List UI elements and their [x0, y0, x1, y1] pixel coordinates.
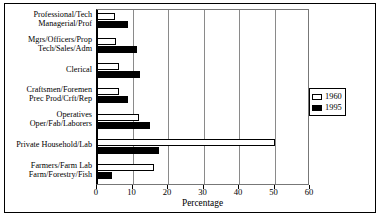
category-label-line: Managerial/Prof [33, 19, 92, 28]
bar-1960 [97, 88, 119, 95]
bar-1960 [97, 164, 154, 171]
bar-1995 [97, 147, 159, 154]
hollow-square-swatch-icon [312, 94, 322, 100]
bar-1995 [97, 172, 112, 179]
x-tick-label: 50 [259, 187, 289, 197]
x-tick-label: 20 [152, 187, 182, 197]
category-label-line: Operatives [30, 110, 92, 119]
x-tick-label: 30 [188, 187, 218, 197]
category-label-line: Farm/Forestry/Fish [29, 170, 92, 179]
bar-1960 [97, 139, 275, 146]
legend-label: 1960 [325, 92, 342, 101]
x-tick-label: 10 [117, 187, 147, 197]
x-axis-title: Percentage [96, 198, 309, 208]
category-label: Clerical [66, 65, 92, 74]
bar-1960 [97, 114, 139, 121]
gridline-50 [275, 10, 276, 184]
category-label: Farmers/Farm Lab Farm/Forestry/Fish [29, 161, 92, 179]
x-tick-label: 0 [81, 187, 111, 197]
gridline-10 [133, 10, 134, 184]
legend-label: 1995 [325, 103, 342, 112]
legend-item-1960: 1960 [312, 91, 342, 102]
gridline-40 [239, 10, 240, 184]
gridline-30 [204, 10, 205, 184]
x-tick-label: 60 [294, 187, 324, 197]
category-label: Professional/Tech Managerial/Prof [33, 10, 92, 28]
legend-item-1995: 1995 [312, 102, 342, 113]
bar-1995 [97, 96, 128, 103]
category-label-line: Private Household/Lab [16, 140, 92, 149]
bar-1995 [97, 122, 150, 129]
category-label-line: Oper/Fab/Laborers [30, 119, 92, 128]
category-label-line: Tech/Sales/Adm [28, 44, 92, 53]
bar-1960 [97, 13, 115, 20]
filled-square-swatch-icon [312, 105, 322, 111]
category-label: Operatives Oper/Fab/Laborers [30, 110, 92, 128]
bar-1995 [97, 21, 128, 28]
bar-1995 [97, 46, 137, 53]
bar-1995 [97, 71, 140, 78]
category-label-line: Craftsmen/Foremen [27, 85, 92, 94]
category-label-line: Professional/Tech [33, 10, 92, 19]
gridline-20 [168, 10, 169, 184]
category-label-line: Clerical [66, 65, 92, 74]
category-label-line: Farmers/Farm Lab [29, 161, 92, 170]
horizontal-bar-chart: Professional/Tech Managerial/Prof Mgrs/O… [0, 0, 381, 217]
plot-area [96, 9, 309, 185]
category-label-line: Mgrs/Officers/Prop [28, 35, 92, 44]
category-label: Mgrs/Officers/Prop Tech/Sales/Adm [28, 35, 92, 53]
category-label-line: Prec Prod/Crft/Rep [27, 94, 92, 103]
bar-1960 [97, 63, 119, 70]
x-tick-label: 40 [223, 187, 253, 197]
legend: 1960 1995 [309, 88, 346, 116]
bar-1960 [97, 38, 116, 45]
category-label: Private Household/Lab [16, 140, 92, 149]
category-label: Craftsmen/Foremen Prec Prod/Crft/Rep [27, 85, 92, 103]
